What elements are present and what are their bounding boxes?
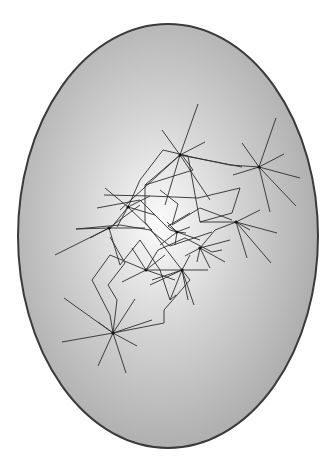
egg-ellipse [18,24,318,448]
hub-dot [126,205,129,208]
hub-dot [107,226,110,229]
hub-dot [178,153,181,156]
hub-dot [180,268,183,271]
hub-dot [198,246,201,249]
hub-dot [234,220,237,223]
hub-dot [111,331,114,334]
hub-dot [175,230,178,233]
hub-dot [144,268,147,271]
egg-network-figure [0,0,335,463]
hub-dot [257,165,260,168]
